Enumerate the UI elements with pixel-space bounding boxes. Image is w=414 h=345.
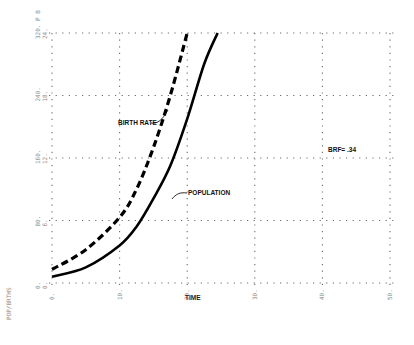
y-tick-label-primary: 240. <box>34 87 41 101</box>
population-label: POPULATION <box>188 189 230 196</box>
y-scale-letters: P B <box>34 10 41 21</box>
x-tick-label: 10. <box>116 289 123 300</box>
data-curves <box>52 33 218 277</box>
birth-rate-label: BIRTH RATE <box>118 119 158 126</box>
population-curve <box>52 33 218 277</box>
y-tick-label-secondary: 6. <box>41 219 48 226</box>
x-axis-title: TIME <box>185 294 201 301</box>
y-tick-label-secondary: 18. <box>41 91 48 102</box>
y-tick-label-secondary: 24. <box>41 28 48 39</box>
y-tick-label-secondary: 0. <box>41 282 48 289</box>
line-chart: 0.10.20.30.40.50.0.0.80.6.160.12.240.18.… <box>0 0 414 345</box>
x-tick-label: 30. <box>251 289 258 300</box>
population-leader-line <box>172 193 187 199</box>
grid-lines <box>49 33 398 287</box>
y-axis-title: POP/BRTHS <box>5 287 12 320</box>
y-tick-label-primary: 0. <box>34 282 41 289</box>
y-tick-label-secondary: 12. <box>41 153 48 164</box>
x-tick-label: 50. <box>386 289 393 300</box>
y-tick-label-primary: 160. <box>34 150 41 164</box>
y-tick-label-primary: 320. <box>34 25 41 39</box>
x-tick-label: 0. <box>48 293 55 300</box>
birth-rate-curve <box>52 33 187 269</box>
y-tick-label-primary: 80. <box>34 216 41 227</box>
brf-label: BRF= .34 <box>328 146 356 153</box>
tick-labels: 0.10.20.30.40.50.0.0.80.6.160.12.240.18.… <box>34 10 393 300</box>
x-tick-label: 40. <box>318 289 325 300</box>
